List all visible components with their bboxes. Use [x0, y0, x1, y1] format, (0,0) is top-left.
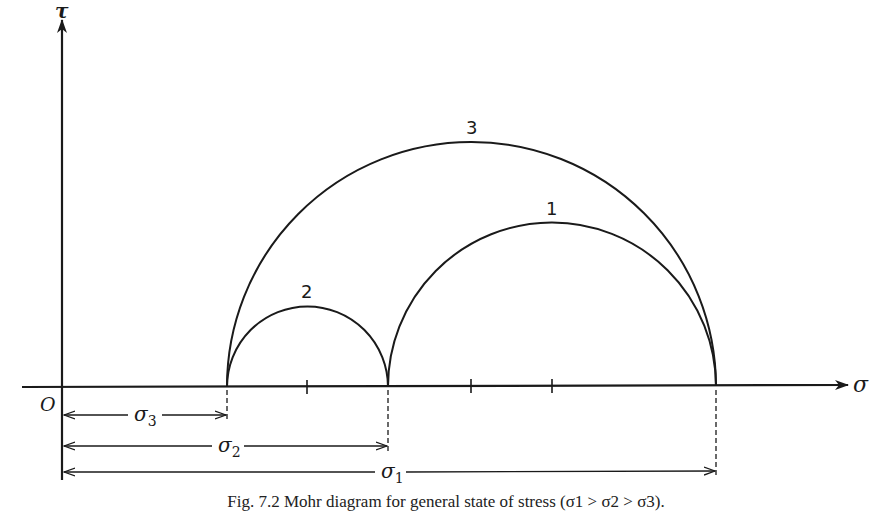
- tau-axis-label: τ: [55, 0, 69, 23]
- circle-1-label: 1: [546, 198, 557, 219]
- circle-3-label: 3: [466, 117, 477, 138]
- sigma1-dim-right: [406, 471, 715, 472]
- circle-2-label: 2: [301, 281, 312, 302]
- sigma-axis: [22, 385, 848, 387]
- circle-2: [227, 307, 388, 387]
- circle-1: [388, 223, 716, 387]
- figure-caption: Fig. 7.2 Mohr diagram for general state …: [0, 492, 892, 512]
- sigma-axis-label: σ: [853, 372, 869, 397]
- circle-3: [227, 142, 716, 387]
- sigma3-label: σ3: [134, 402, 157, 429]
- origin-label: O: [40, 393, 56, 415]
- sigma2-label: σ2: [218, 433, 241, 460]
- sigma1-label: σ1: [381, 459, 404, 486]
